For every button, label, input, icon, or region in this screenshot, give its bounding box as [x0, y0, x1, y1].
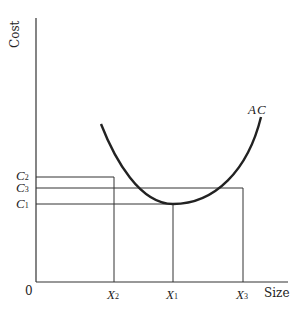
x3-label: X3	[236, 287, 248, 303]
ac-curve	[101, 117, 261, 204]
x2-label: X2	[107, 287, 119, 303]
c1-label: C1	[16, 196, 29, 212]
y-axis-label: Cost	[8, 21, 22, 48]
origin-label: 0	[25, 284, 33, 298]
ac-label: AC	[248, 102, 267, 118]
x1-label: X1	[166, 287, 178, 303]
chart-canvas	[0, 0, 304, 315]
c2-label: C2	[16, 168, 29, 184]
x-axis-label: Size	[264, 286, 289, 300]
